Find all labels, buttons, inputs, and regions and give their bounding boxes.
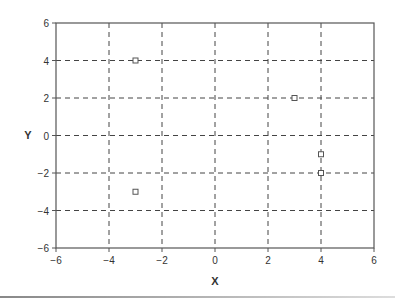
y-tick-label: 6 [43, 18, 49, 29]
x-tick-label: −6 [50, 255, 62, 266]
x-tick-label: 6 [371, 255, 377, 266]
x-tick-label: 2 [265, 255, 271, 266]
scatter-chart: −6−4−20246 −6−4−20246 X Y [0, 0, 395, 301]
data-point-marker [319, 171, 324, 176]
x-axis-ticks: −6−4−20246 [50, 248, 377, 266]
x-tick-label: 0 [212, 255, 218, 266]
y-tick-label: 2 [43, 93, 49, 104]
grid-lines [56, 23, 374, 248]
data-point-marker [133, 189, 138, 194]
bottom-divider [0, 296, 395, 298]
data-point-marker [319, 152, 324, 157]
data-point-marker [292, 96, 297, 101]
y-tick-label: 4 [43, 56, 49, 67]
y-tick-label: 0 [43, 131, 49, 142]
y-tick-label: −4 [38, 206, 50, 217]
x-axis-label: X [211, 275, 219, 287]
x-tick-label: 4 [318, 255, 324, 266]
x-tick-label: −4 [103, 255, 115, 266]
y-axis-label: Y [24, 129, 32, 141]
data-point-marker [133, 58, 138, 63]
y-tick-label: −2 [38, 168, 50, 179]
x-tick-label: −2 [156, 255, 168, 266]
y-tick-label: −6 [38, 243, 50, 254]
y-axis-ticks: −6−4−20246 [38, 18, 56, 254]
